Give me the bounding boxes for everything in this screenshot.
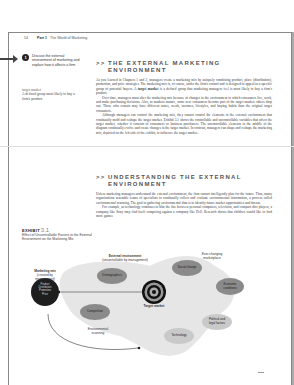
page-number: 54 <box>24 36 28 40</box>
part-label: Part 1 <box>37 36 47 40</box>
oval-label: Economicconditions <box>223 283 237 290</box>
mix-item: Price <box>33 293 57 296</box>
oval-economic-conditions: Economicconditions <box>216 278 244 295</box>
label-line: marketplace <box>192 257 232 261</box>
paragraph: Over time, managers must alter the marke… <box>96 96 272 114</box>
exhibit-diagram: External environment (uncontrollable by … <box>20 252 260 362</box>
objective-arrow-icon <box>0 58 14 60</box>
objective-number-badge: 1 <box>22 54 29 61</box>
heading-line-1: UNDERSTANDING THE EXTERNAL <box>108 174 242 180</box>
ever-changing-marketplace-label: Ever-changing marketplace <box>192 253 232 261</box>
target-market-label: Target market <box>136 305 172 309</box>
oval-technology: Technology <box>164 328 194 344</box>
learning-objective: 1 Discuss the external environment of ma… <box>22 54 82 67</box>
oval-label: Social change <box>178 266 197 270</box>
oval-label: Demographics <box>102 274 121 278</box>
exhibit-number: 3.1 <box>41 227 49 233</box>
oval-demographics: Demographics <box>97 268 127 284</box>
section-body-external-environment: As you learned in Chapters 1 and 2, mana… <box>96 78 272 135</box>
oval-label: Technology <box>171 334 186 338</box>
label-sub: (uncontrollable by management) <box>80 259 170 263</box>
marketing-mix-items: Product Distribution Promotion Price <box>33 283 57 296</box>
chevron-icon: >> <box>96 60 108 67</box>
oval-social-change: Social change <box>172 260 202 276</box>
label-line: scanning <box>80 332 116 336</box>
paragraph: Unless marketing managers understand the… <box>96 192 272 205</box>
heading-line-2: ENVIRONMENT <box>96 181 242 188</box>
section-body-understanding: Unless marketing managers understand the… <box>96 192 272 218</box>
scan-line <box>0 146 294 147</box>
environmental-scanning-label: Environmental scanning <box>80 328 116 336</box>
oval-line: conditions <box>223 286 237 290</box>
part-title: The World of Marketing <box>50 36 87 40</box>
oval-label: Political andlegal factors <box>209 318 225 325</box>
key-term-target-market: target market <box>138 87 159 91</box>
glossary-note: target market A defined group most likel… <box>22 88 82 101</box>
objective-text: Discuss the external environment of mark… <box>32 54 82 67</box>
marketing-mix-label: Marketing mix (created by management) <box>22 270 68 281</box>
exhibit-caption: EXHIBIT 3.1 Effect of Uncontrollable Fac… <box>22 228 92 242</box>
heading-line-2: ENVIRONMENT <box>96 67 221 74</box>
glossary-definition: A defined group most likely to buy a fir… <box>22 92 75 100</box>
label-sub: management) <box>22 278 68 282</box>
paragraph: For example, as technology continues to … <box>96 205 272 218</box>
page-edge <box>292 32 294 385</box>
oval-political-legal: Political andlegal factors <box>202 314 232 330</box>
running-head: 54 Part 1 The World of Marketing <box>24 36 87 40</box>
section-heading-understanding: >>UNDERSTANDING THE EXTERNAL ENVIRONMENT <box>96 174 242 188</box>
heading-line-1: THE EXTERNAL MARKETING <box>108 60 221 66</box>
section-heading-external-environment: >>THE EXTERNAL MARKETING ENVIRONMENT <box>96 60 221 74</box>
paragraph: Although managers can control the market… <box>96 113 272 135</box>
external-environment-label: External environment (uncontrollable by … <box>80 255 170 263</box>
exhibit-caption-text: Effect of Uncontrollable Factors in the … <box>22 233 92 241</box>
chevron-icon: >> <box>96 174 108 181</box>
oval-line: legal factors <box>209 321 225 325</box>
paragraph: As you learned in Chapters 1 and 2, mana… <box>96 78 272 96</box>
oval-label: Competition <box>87 310 103 314</box>
oval-competition: Competition <box>80 304 110 320</box>
footer-mark <box>258 372 264 373</box>
